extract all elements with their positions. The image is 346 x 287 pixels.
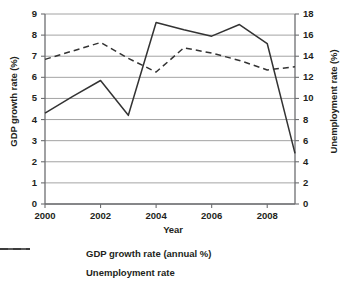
legend-item[interactable]: GDP growth rate (annual %) [0, 244, 346, 263]
chart-legend: GDP growth rate (annual %)Unemployment r… [0, 244, 346, 282]
y-axis-right-tick-label: 6 [303, 135, 319, 146]
x-axis-tick-label: 2000 [25, 210, 65, 221]
chart-container: GDP growth rate (%) Unemployment rate (%… [0, 0, 346, 287]
legend-label: GDP growth rate (annual %) [86, 248, 211, 259]
legend-label: Unemployment rate [86, 267, 175, 278]
x-axis-tick-label: 2004 [136, 210, 176, 221]
y-axis-right-tick-label: 16 [303, 29, 319, 40]
y-axis-left-tick-label: 4 [23, 114, 37, 125]
y-axis-left-tick-label: 6 [23, 71, 37, 82]
series-line-0 [45, 22, 295, 153]
y-axis-left-tick-label: 3 [23, 135, 37, 146]
y-axis-left-tick-label: 7 [23, 50, 37, 61]
y-axis-right-tick-label: 8 [303, 114, 319, 125]
legend-swatch-dashed [0, 244, 30, 254]
y-axis-left-tick-label: 8 [23, 29, 37, 40]
y-axis-left-tick-label: 0 [23, 198, 37, 209]
data-series [45, 22, 295, 153]
gridlines [45, 14, 295, 204]
x-axis-tick-label: 2002 [81, 210, 121, 221]
legend-item[interactable]: Unemployment rate [0, 263, 346, 282]
y-axis-left-tick-label: 5 [23, 92, 37, 103]
y-axis-right-tick-label: 10 [303, 92, 319, 103]
y-axis-right-tick-label: 2 [303, 177, 319, 188]
x-axis-tick-label: 2006 [192, 210, 232, 221]
axis-lines [45, 14, 295, 204]
x-axis-tick-label: 2008 [247, 210, 287, 221]
y-axis-right-tick-label: 12 [303, 71, 319, 82]
y-axis-left-tick-label: 2 [23, 156, 37, 167]
y-axis-right-tick-label: 0 [303, 198, 319, 209]
axis-ticks [41, 14, 299, 208]
y-axis-right-tick-label: 18 [303, 8, 319, 19]
series-line-1 [45, 43, 295, 73]
y-axis-left-tick-label: 9 [23, 8, 37, 19]
y-axis-right-tick-label: 4 [303, 156, 319, 167]
y-axis-left-tick-label: 1 [23, 177, 37, 188]
y-axis-right-tick-label: 14 [303, 50, 319, 61]
